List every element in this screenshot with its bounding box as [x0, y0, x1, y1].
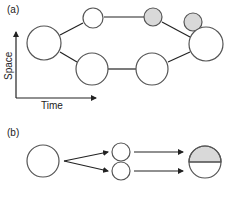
panel-a-label: (a) [7, 4, 19, 15]
node-bottom-right [136, 53, 168, 85]
x-axis-label: Time [41, 100, 63, 111]
panel-b [27, 143, 221, 180]
panel-b-label: (b) [7, 127, 19, 138]
diagram: (a) Space Time (b) [0, 0, 232, 214]
daughter-cell-bottom [112, 162, 130, 180]
node-bottom-mid [76, 53, 108, 85]
y-axis-label: Space [3, 51, 14, 80]
parent-cell [27, 145, 59, 177]
merged-cell-gray-half [189, 146, 221, 162]
panel-a-nodes [27, 8, 223, 85]
node-gray-top [144, 8, 162, 26]
node-small-top [83, 8, 103, 28]
node-large-left [27, 26, 61, 60]
node-large-right [189, 27, 223, 61]
daughter-cell-top [112, 143, 130, 161]
